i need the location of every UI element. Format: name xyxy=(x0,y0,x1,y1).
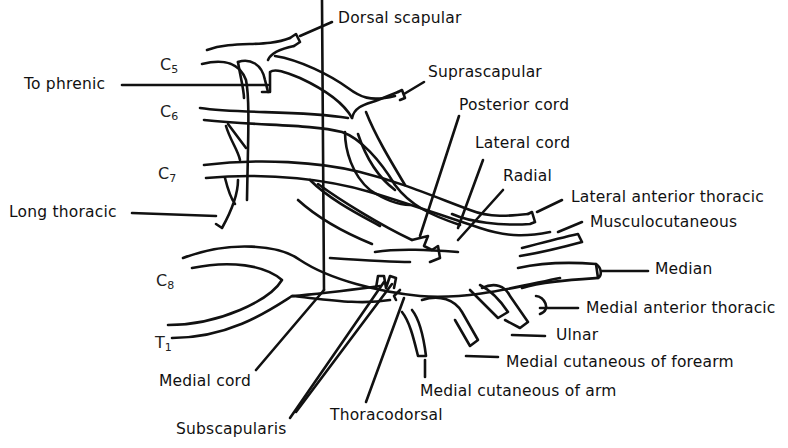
root-letter: C xyxy=(160,55,171,74)
root-number: 6 xyxy=(171,110,178,123)
label-lateral-cord: Lateral cord xyxy=(475,136,570,152)
label-suprascapular: Suprascapular xyxy=(428,65,542,81)
root-letter: C xyxy=(156,271,167,290)
label-medial-cutaneous-arm: Medial cutaneous of arm xyxy=(420,384,617,400)
root-letter: C xyxy=(160,102,171,121)
root-label-c8: C8 xyxy=(156,273,174,291)
label-ulnar: Ulnar xyxy=(556,328,598,344)
root-number: 5 xyxy=(171,63,178,76)
label-median: Median xyxy=(655,262,713,278)
label-medial-cord: Medial cord xyxy=(159,374,251,390)
label-musculocutaneous: Musculocutaneous xyxy=(590,215,737,231)
label-subscapularis: Subscapularis xyxy=(176,422,286,438)
root-label-t1: T1 xyxy=(155,335,172,353)
label-medial-anterior-thoracic: Medial anterior thoracic xyxy=(586,301,776,317)
root-number: 7 xyxy=(169,172,176,185)
label-to-phrenic: To phrenic xyxy=(24,77,105,93)
root-letter: T xyxy=(155,333,165,352)
label-medial-cutaneous-forearm: Medial cutaneous of forearm xyxy=(506,355,734,371)
root-letter: C xyxy=(158,164,169,183)
label-dorsal-scapular: Dorsal scapular xyxy=(338,11,462,27)
median-nerve xyxy=(518,234,601,288)
label-thoracodorsal: Thoracodorsal xyxy=(330,408,443,424)
root-label-c6: C6 xyxy=(160,104,178,122)
posterior-cord-nerve xyxy=(330,236,458,262)
root-label-c5: C5 xyxy=(160,57,178,75)
label-radial: Radial xyxy=(503,169,552,185)
label-posterior-cord: Posterior cord xyxy=(459,98,569,114)
label-long-thoracic: Long thoracic xyxy=(9,205,117,221)
root-number: 1 xyxy=(165,341,172,354)
root-label-c7: C7 xyxy=(158,166,176,184)
root-number: 8 xyxy=(167,279,174,292)
label-lateral-anterior-thoracic: Lateral anterior thoracic xyxy=(571,190,764,206)
